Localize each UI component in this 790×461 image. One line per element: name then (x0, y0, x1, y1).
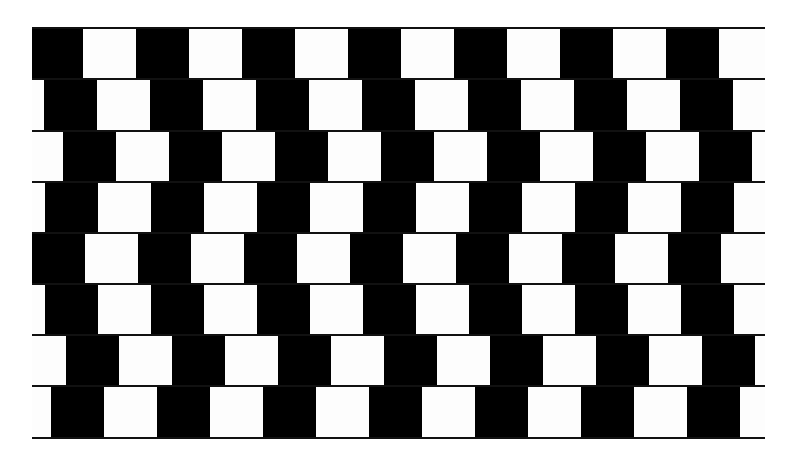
white-tile (225, 335, 278, 386)
white-tile (543, 335, 596, 386)
white-tile (721, 233, 765, 284)
white-tile (98, 284, 151, 335)
white-tile (507, 28, 560, 79)
mortar-line (32, 27, 765, 29)
white-tile (615, 233, 668, 284)
mortar-line (32, 130, 765, 132)
white-tile (740, 386, 765, 438)
white-tile (116, 131, 169, 182)
white-tile (755, 335, 765, 386)
white-tile (522, 182, 575, 233)
white-tile (634, 386, 687, 438)
white-tile (119, 335, 172, 386)
white-tile (403, 233, 456, 284)
wall-row (32, 284, 765, 335)
mortar-line (32, 78, 765, 80)
wall-row (32, 386, 765, 438)
white-tile (528, 386, 581, 438)
white-tile (422, 386, 475, 438)
mortar-line (32, 437, 765, 439)
white-tile (32, 79, 44, 131)
white-tile (210, 386, 263, 438)
white-tile (316, 386, 369, 438)
white-tile (719, 28, 765, 79)
white-tile (416, 284, 469, 335)
white-tile (734, 284, 765, 335)
white-tile (309, 79, 362, 131)
white-tile (649, 335, 702, 386)
white-tile (295, 28, 348, 79)
white-tile (297, 233, 350, 284)
white-tile (628, 284, 681, 335)
white-tile (104, 386, 157, 438)
mortar-line (32, 283, 765, 285)
white-tile (613, 28, 666, 79)
white-tile (522, 284, 575, 335)
white-tile (32, 386, 51, 438)
white-tile (98, 182, 151, 233)
wall-row (32, 182, 765, 233)
white-tile (97, 79, 150, 131)
white-tile (415, 79, 468, 131)
white-tile (32, 335, 66, 386)
white-tile (627, 79, 680, 131)
mortar-line (32, 334, 765, 336)
white-tile (310, 182, 363, 233)
white-tile (734, 182, 765, 233)
wall-row (32, 233, 765, 284)
white-tile (83, 28, 136, 79)
white-tile (189, 28, 242, 79)
cafe-wall-illusion (0, 0, 790, 461)
white-tile (540, 131, 593, 182)
mortar-line (32, 385, 765, 387)
white-tile (401, 28, 454, 79)
white-tile (733, 79, 765, 131)
wall-row (32, 79, 765, 131)
white-tile (32, 131, 63, 182)
white-tile (509, 233, 562, 284)
white-tile (437, 335, 490, 386)
white-tile (222, 131, 275, 182)
white-tile (310, 284, 363, 335)
white-tile (328, 131, 381, 182)
white-tile (203, 79, 256, 131)
white-tile (204, 284, 257, 335)
white-tile (646, 131, 699, 182)
white-tile (628, 182, 681, 233)
white-tile (204, 182, 257, 233)
white-tile (191, 233, 244, 284)
white-tile (434, 131, 487, 182)
white-tile (752, 131, 765, 182)
white-tile (32, 182, 45, 233)
wall-row (32, 335, 765, 386)
wall-row (32, 131, 765, 182)
white-tile (416, 182, 469, 233)
white-tile (331, 335, 384, 386)
wall-row (32, 28, 765, 79)
white-tile (85, 233, 138, 284)
white-tile (521, 79, 574, 131)
mortar-line (32, 181, 765, 183)
white-tile (32, 284, 45, 335)
mortar-line (32, 232, 765, 234)
